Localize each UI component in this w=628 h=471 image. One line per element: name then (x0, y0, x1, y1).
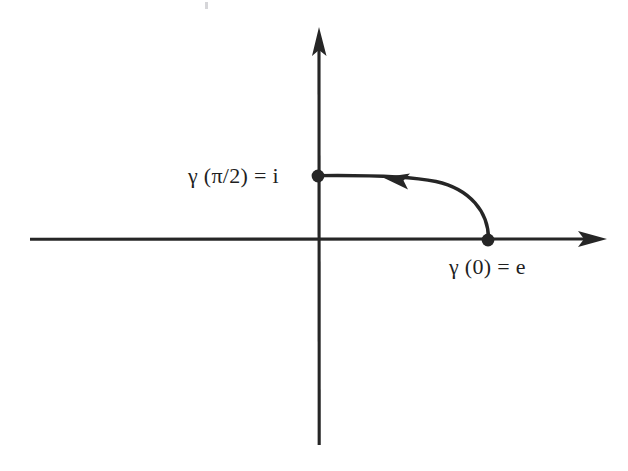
scan-speck (205, 2, 208, 9)
point-label-i: γ (π/2) = i (188, 165, 279, 187)
gamma-curve (319, 174, 489, 240)
point-i-dot (312, 170, 325, 183)
vertical-axis (312, 27, 327, 445)
point-label-e: γ (0) = e (449, 256, 526, 278)
complex-plane-diagram (0, 0, 628, 471)
figure-canvas: γ (π/2) = i γ (0) = e (0, 0, 628, 471)
point-e-dot (482, 234, 495, 247)
